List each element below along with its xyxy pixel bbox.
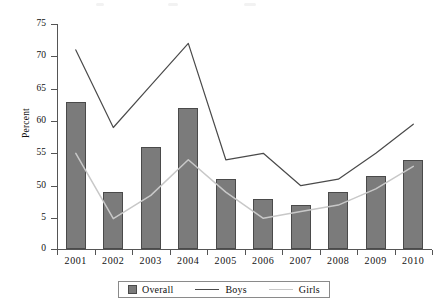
bar <box>366 176 386 249</box>
y-tick-label: 55 <box>22 148 46 158</box>
x-tick-mark <box>207 250 208 255</box>
chart-figure: Percent 75706560555050 20012002200320042… <box>0 0 438 307</box>
y-tick-label: 75 <box>22 19 46 29</box>
x-tick-mark <box>95 250 96 255</box>
bar <box>253 199 273 249</box>
y-tick-mark <box>51 218 58 219</box>
x-tick-mark <box>320 250 321 255</box>
y-tick-label: 5 <box>22 213 46 223</box>
y-tick-mark <box>51 121 58 122</box>
legend-label-boys: Boys <box>225 284 246 295</box>
cropped-title-artifact <box>0 0 438 10</box>
legend-item-overall: Overall <box>128 284 173 295</box>
x-tick-mark <box>432 250 433 255</box>
bar <box>403 160 423 249</box>
legend-swatch-icon <box>128 285 137 294</box>
x-tick-mark <box>395 250 396 255</box>
legend-line-icon-boys <box>195 289 219 290</box>
x-tick-mark <box>357 250 358 255</box>
y-tick-mark <box>51 153 58 154</box>
y-tick-label: 70 <box>22 51 46 61</box>
y-tick-label: 60 <box>22 116 46 126</box>
legend-label-overall: Overall <box>142 284 173 295</box>
x-tick-label: 2010 <box>390 256 436 266</box>
y-axis-line <box>57 24 58 250</box>
bar <box>328 192 348 249</box>
legend-label-girls: Girls <box>299 284 320 295</box>
y-tick-mark <box>51 186 58 187</box>
bar <box>66 102 86 249</box>
y-tick-label: 65 <box>22 84 46 94</box>
x-tick-mark <box>132 250 133 255</box>
x-tick-mark <box>245 250 246 255</box>
bar <box>216 179 236 249</box>
bar <box>291 205 311 249</box>
y-tick-mark <box>51 89 58 90</box>
x-tick-mark <box>282 250 283 255</box>
y-tick-mark <box>51 56 58 57</box>
bar <box>178 108 198 249</box>
y-tick-label: 0 <box>22 244 46 254</box>
girls-line <box>76 153 414 218</box>
x-tick-mark <box>170 250 171 255</box>
legend-item-boys: Boys <box>195 284 246 295</box>
bar <box>141 147 161 249</box>
legend-line-icon-girls <box>269 289 293 290</box>
x-tick-mark <box>57 250 58 255</box>
y-tick-mark <box>51 24 58 25</box>
legend-item-girls: Girls <box>269 284 320 295</box>
chart-legend: Overall Boys Girls <box>118 281 330 298</box>
boys-line <box>76 43 414 185</box>
y-tick-label: 50 <box>22 181 46 191</box>
bar <box>103 192 123 249</box>
